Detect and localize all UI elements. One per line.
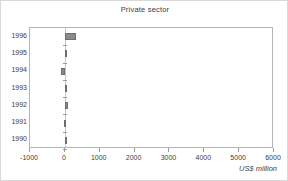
- bar-1991: [64, 120, 66, 127]
- chart-figure: Private sector 1996199519941993199219911…: [0, 0, 288, 181]
- y-axis-tick: [63, 114, 67, 115]
- y-axis-label-1990: 1990: [1, 135, 27, 142]
- y-axis-label-1996: 1996: [1, 32, 27, 39]
- x-axis-tick: [99, 148, 100, 152]
- y-axis-labels: 1996199519941993199219911990: [1, 27, 27, 148]
- x-axis-tick: [238, 148, 239, 152]
- x-axis-tick: [134, 148, 135, 152]
- y-axis-tick: [63, 45, 67, 46]
- x-axis-label-6000: 6000: [253, 154, 288, 161]
- bar-1996: [65, 33, 76, 40]
- y-axis-label-1992: 1992: [1, 101, 27, 108]
- x-axis-tick: [168, 148, 169, 152]
- x-axis-title: US$ million: [239, 164, 277, 173]
- plot-area: [29, 27, 273, 148]
- x-axis: -10000100020003000400050006000: [29, 148, 273, 178]
- y-axis-label-1993: 1993: [1, 84, 27, 91]
- plot-inner: [30, 28, 272, 147]
- y-axis-tick: [63, 132, 67, 133]
- chart-title: Private sector: [1, 5, 288, 14]
- bar-1994: [61, 68, 65, 75]
- x-axis-tick: [64, 148, 65, 152]
- x-axis-tick: [273, 148, 274, 152]
- y-axis-label-1991: 1991: [1, 118, 27, 125]
- bar-1990: [65, 137, 67, 144]
- y-axis-label-1995: 1995: [1, 49, 27, 56]
- x-axis-tick: [29, 148, 30, 152]
- bar-1992: [65, 102, 68, 109]
- y-axis-tick: [63, 63, 67, 64]
- bar-1993: [65, 85, 67, 92]
- y-axis-tick: [63, 80, 67, 81]
- y-axis-label-1994: 1994: [1, 66, 27, 73]
- bar-1995: [65, 50, 67, 57]
- y-axis-tick: [63, 97, 67, 98]
- x-axis-tick: [203, 148, 204, 152]
